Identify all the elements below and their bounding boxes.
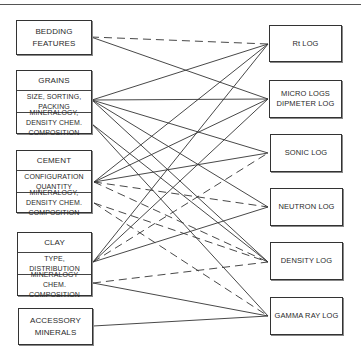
micro-logs-label: MICRO LOGS DIPMETER LOG (270, 81, 341, 117)
neutron-log-box: NEUTRON LOG (270, 188, 343, 226)
accessory-minerals-label: ACCESSORY MINERALS (19, 309, 92, 344)
edge-clay-sonic (93, 153, 268, 262)
rt-log-label: Rt LOG (270, 26, 341, 61)
clay-box: CLAY TYPE, DISTRIBUTION MINERALOGY CHEM.… (17, 232, 92, 296)
bedding-features-label: BEDDING FEATURES (17, 21, 91, 54)
density-log-box: DENSITY LOG (270, 242, 343, 280)
edge-grains-rt (92, 44, 268, 100)
density-log-label: DENSITY LOG (271, 243, 342, 279)
edge-cement-min-gamma (94, 203, 268, 316)
neutron-log-label: NEUTRON LOG (271, 189, 342, 225)
grains-mineralogy: MINERALOGY, DENSITY CHEM. COMPOSITION (17, 112, 91, 133)
edge-cement-sonic (94, 153, 268, 182)
sonic-log-label: SONIC LOG (271, 135, 341, 171)
clay-mineralogy: MINERALOGY CHEM. COMPOSITION (18, 274, 91, 295)
cement-mineralogy: MINERALOGY, DENSITY CHEM. COMPOSITION (17, 192, 91, 212)
edge-cement-neutron (94, 182, 268, 207)
edge-accessory-gamma (93, 316, 268, 326)
micro-logs-box: MICRO LOGS DIPMETER LOG (269, 80, 342, 118)
edge-cement-rt (94, 44, 268, 182)
edge-bedding-rt (91, 37, 268, 44)
bedding-features-box: BEDDING FEATURES (16, 20, 92, 55)
clay-title: CLAY (18, 233, 91, 252)
edge-grains-micro (92, 99, 268, 100)
accessory-minerals-box: ACCESSORY MINERALS (18, 308, 93, 345)
edge-clay-rt (93, 44, 268, 262)
cement-box: CEMENT CONFIGURATION QUANTITY MINERALOGY… (16, 150, 92, 213)
gamma-ray-log-label: GAMMA RAY LOG (271, 298, 342, 334)
grains-box: GRAINS SIZE, SORTING, PACKING MINERALOGY… (16, 70, 92, 134)
gamma-ray-log-box: GAMMA RAY LOG (270, 297, 343, 335)
edge-grains-min-gamma (92, 124, 268, 316)
edge-bedding-micro (91, 37, 268, 99)
rt-log-box: Rt LOG (269, 25, 342, 62)
grains-title: GRAINS (17, 71, 91, 90)
edge-clay-min-density (93, 262, 268, 283)
sonic-log-box: SONIC LOG (270, 134, 342, 172)
cement-title: CEMENT (17, 151, 91, 170)
edge-clay-neutron (93, 207, 268, 262)
